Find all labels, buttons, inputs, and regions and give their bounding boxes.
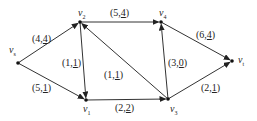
node-v3 (166, 97, 170, 101)
edge-label-v2-v1: (1,1) (62, 58, 81, 68)
node-label-v3: v3 (170, 104, 177, 116)
node-v2 (78, 20, 82, 24)
node-label-vs: vs (9, 45, 16, 57)
edge-v3-v2 (82, 24, 168, 99)
edge-label-v2-v4: (5,4) (110, 8, 129, 18)
edge-label-v3-v4: (3,0) (168, 58, 187, 68)
node-label-v2: v2 (78, 8, 85, 20)
node-vt (230, 59, 234, 63)
node-label-v1: v1 (83, 104, 90, 116)
edge-label-v3-v2: (1,1) (104, 70, 123, 80)
edge-label-vs-v1: (5,1) (32, 83, 51, 93)
node-label-vt: vt (238, 55, 244, 67)
edge-label-v3-vt: (2,1) (201, 83, 220, 93)
node-label-v4: v4 (159, 8, 166, 20)
node-vs (16, 61, 20, 65)
edge-v3-v4 (161, 24, 168, 99)
edge-label-v4-vt: (6,4) (196, 30, 215, 40)
edge-vs-v1 (18, 63, 84, 99)
node-v4 (159, 20, 163, 24)
node-v1 (84, 98, 88, 102)
edge-label-vs-v2: (4,4) (32, 34, 51, 44)
edge-label-v1-v3: (2,2) (115, 103, 134, 113)
edge-v4-vt (161, 22, 230, 60)
edge-v1-v3 (86, 99, 166, 100)
